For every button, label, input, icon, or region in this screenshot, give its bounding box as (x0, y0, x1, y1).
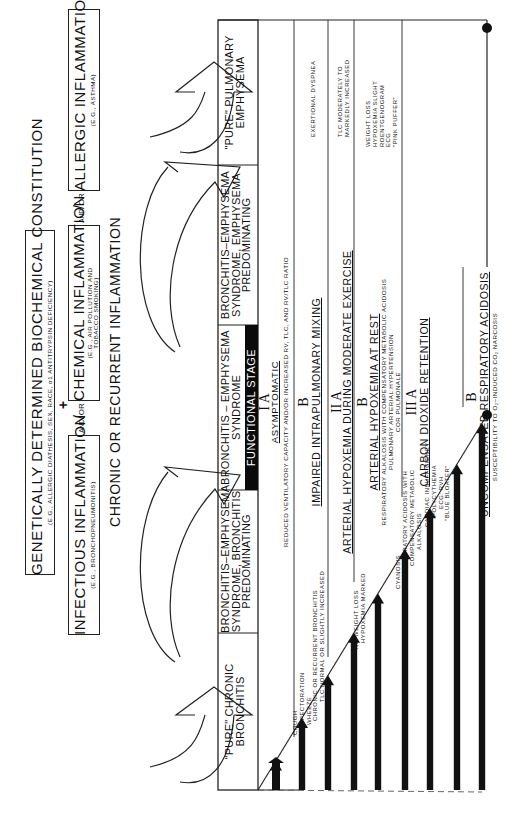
or-label: OR (77, 403, 86, 415)
sign-exertional-dyspnea: EXERTIONAL DYSPNEA (310, 60, 317, 137)
or-label: OR (77, 193, 86, 205)
sign-cough-group: COUGH EXPECTORATION WHEEZE CHRONIC OR RE… (292, 590, 319, 735)
sign-tlc-increased: TLC MODERATELY TO MARKEDLY INCREASED (337, 59, 351, 137)
and-or-1: AND/OR (72, 402, 86, 434)
chemical-title: CHEMICAL INFLAMMATION (71, 225, 86, 401)
stage-2b-detail-3: COR PULMONALE (395, 252, 401, 552)
copd-diagram: GENETICALLY DETERMINED BIOCHEMICAL CONST… (0, 0, 523, 827)
sign-cyanosis: CYANOSIS (395, 555, 402, 589)
and-label: AND (78, 419, 85, 433)
and-label: AND (78, 209, 85, 223)
allergic-subtitle: (E.G., ASTHMA) (90, 9, 96, 191)
chemical-subtitle-2: TOBACCO SMOKING) (93, 225, 99, 401)
progression-arrow (451, 464, 463, 790)
sign-respiratory-acidosis: RESPIRATORY ACIDOSIS WITH COMPENSATORY M… (402, 470, 422, 572)
stage-3a-numeral: III A (405, 372, 419, 432)
stage-3b-title: UNCOMPENSATED RESPIRATORY ACIDOSIS (479, 277, 490, 517)
column-header-pure-chronic-bronchitis: "PURE" CHRONIC BRONCHITIS (224, 633, 245, 790)
stage-2a-title: ARTERIAL HYPOXEMIA DURING MODERATE EXERC… (342, 227, 353, 577)
curved-arrow-1 (150, 715, 205, 767)
column-header-pure-pulmonary-emphysema: "PURE" PULMONARY EMPHYSEMA (224, 20, 245, 165)
curved-arrow-2 (140, 472, 175, 662)
stage-1b-title: IMPAIRED INTRAPULMONARY MIXING (311, 277, 322, 527)
stage-1b-numeral: B (297, 372, 311, 432)
progression-arrow (372, 593, 384, 790)
column-header-syndrome: BRONCHITIS – EMPHYSEMA SYNDROME (220, 325, 241, 490)
sign-no-weight-loss: NO WEIGHT LOSS HYPOXEMIA MARKED (353, 573, 367, 649)
sign-pink-puffer: WEIGHT LOSS HYPOXEMIA SLIGHT ROENTGENOGR… (365, 81, 399, 147)
progression-arrow (270, 761, 282, 790)
sign-blue-bloater: CARDIAC INSUFFICIENCY POLYCYTHEMIA ECG: … (424, 442, 451, 527)
curved-arrow-3 (140, 167, 175, 352)
and-or-2: AND/OR (72, 192, 86, 224)
stage-3b-numeral: B (465, 367, 479, 427)
constitution-title: GENETICALLY DETERMINED BIOCHEMICAL CONST… (29, 230, 44, 575)
stage-3b-detail: SUSCEPTIBILITY TO O₂–INDUCED CO₂ NARCOSI… (492, 267, 498, 527)
progression-arrow (424, 508, 436, 790)
chronic-inflammation-label: CHRONIC OR RECURRENT INFLAMMATION (108, 227, 122, 527)
stage-1a-detail: REDUCED VENTILATORY CAPACITY AND/OR INCR… (283, 172, 289, 632)
curved-arrow-4 (150, 92, 205, 137)
sign-tlc-normal: TLC NORMAL OR SLIGHTLY INCREASED (319, 571, 326, 702)
stage-2b-title: ARTERIAL HYPOXEMIA AT REST (369, 287, 380, 517)
constitution-subtitle: (E.G., ALLERGIC DIATHESIS, SEX, RACE, α1… (47, 230, 53, 575)
endpoint-dot-emphysema (482, 23, 492, 33)
infectious-subtitle: (E.G., BRONCHOPNEUMONITIS) (90, 435, 96, 635)
infectious-title: INFECTIOUS INFLAMMATION (72, 435, 87, 635)
allergic-title: ALLERGIC INFLAMMATION (72, 9, 87, 191)
column-header-emphysema-predominating: BRONCHITIS–EMPHYSEMA SYNDROME, EMPHYSEMA… (220, 165, 252, 325)
functional-stage-label: FUNCTIONAL STAGE (246, 325, 257, 490)
progression-arrow (348, 633, 360, 790)
column-header-bronchitis-predominating: BRONCHITIS–EMPHYSEMA SYNDROME, BRONCHITI… (220, 490, 252, 633)
stage-1a-title: ASYMPTOMATIC (270, 332, 280, 472)
